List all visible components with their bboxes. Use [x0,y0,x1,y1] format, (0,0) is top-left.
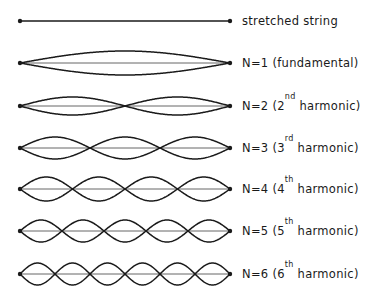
wave-lower-envelope-n2 [20,106,230,115]
label-n4-harmonic: N=4 (4th harmonic) [242,182,359,196]
wave-upper-envelope-n1 [20,51,230,63]
fixed-end-right-n5 [228,229,232,233]
fixed-end-right-stretched [228,19,232,23]
label-n6-harmonic: N=6 (6th harmonic) [242,267,359,281]
label-n2-harmonic: N=2 (2nd harmonic) [242,99,361,113]
fixed-end-left-n6 [18,272,22,276]
fixed-end-left-n2 [18,104,22,108]
wave-upper-envelope-n2 [20,97,230,106]
wave-lower-envelope-n5 [20,231,230,242]
fixed-end-right-n4 [228,187,232,191]
fixed-end-right-n6 [228,272,232,276]
fixed-end-left-n5 [18,229,22,233]
wave-upper-envelope-n6 [20,263,230,274]
wave-lower-envelope-n1 [20,63,230,75]
fixed-end-left-stretched [18,19,22,23]
label-n3-harmonic: N=3 (3rd harmonic) [242,141,359,155]
fixed-end-left-n4 [18,187,22,191]
wave-upper-envelope-n3 [20,137,230,148]
fixed-end-right-n2 [228,104,232,108]
wave-lower-envelope-n3 [20,148,230,159]
label-stretched-string: stretched string [242,14,338,28]
wave-upper-envelope-n5 [20,220,230,231]
wave-lower-envelope-n4 [20,189,230,201]
fixed-end-right-n3 [228,146,232,150]
label-n1-fundamental: N=1 (fundamental) [242,56,359,70]
fixed-end-left-n1 [18,61,22,65]
label-n5-harmonic: N=5 (5th harmonic) [242,224,359,238]
fixed-end-left-n3 [18,146,22,150]
wave-upper-envelope-n4 [20,177,230,189]
wave-lower-envelope-n6 [20,274,230,285]
fixed-end-right-n1 [228,61,232,65]
